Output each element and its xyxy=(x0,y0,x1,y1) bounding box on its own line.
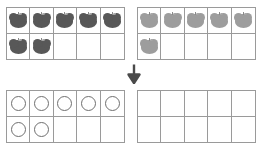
apple-leaf-icon xyxy=(220,13,223,15)
apple-body-icon xyxy=(211,14,228,28)
ten-frame-cell[interactable] xyxy=(232,8,255,34)
ten-frame-cell-empty[interactable] xyxy=(185,91,208,117)
ten-frame-cell-empty[interactable] xyxy=(77,117,100,143)
ten-frame-cell[interactable] xyxy=(30,34,53,60)
ten-frame-cell-empty[interactable] xyxy=(54,34,77,60)
ten-frame-cell[interactable] xyxy=(161,8,184,34)
ten-frame-cell[interactable] xyxy=(101,8,124,34)
ten-frame-top-left-apples[interactable] xyxy=(6,7,125,60)
apple-body-icon xyxy=(141,14,158,28)
apple-body-icon xyxy=(187,14,204,28)
apple-dark-icon xyxy=(33,12,50,28)
apple-body-icon xyxy=(235,14,252,28)
apple-body-icon xyxy=(10,40,27,54)
ten-frame-cell[interactable] xyxy=(208,8,231,34)
ten-frame-cell[interactable] xyxy=(138,8,161,34)
ten-frame-cell-empty[interactable] xyxy=(54,117,77,143)
worksheet-canvas xyxy=(0,0,267,149)
apple-light-icon xyxy=(187,12,204,28)
ten-frame-cell[interactable] xyxy=(77,8,100,34)
ten-frame-cell[interactable] xyxy=(30,8,53,34)
counter-circle-icon xyxy=(11,96,26,111)
apple-leaf-icon xyxy=(42,13,45,15)
ten-frame-cell[interactable] xyxy=(7,91,30,117)
ten-frame-cell-empty[interactable] xyxy=(232,117,255,143)
apple-leaf-icon xyxy=(113,13,116,15)
apple-dark-icon xyxy=(80,12,97,28)
counter-circle-icon xyxy=(11,122,26,137)
ten-frame-cell-empty[interactable] xyxy=(77,34,100,60)
counter-circle-icon xyxy=(105,96,120,111)
ten-frame-cell[interactable] xyxy=(54,91,77,117)
ten-frame-cell-empty[interactable] xyxy=(208,117,231,143)
ten-frame-cell-empty[interactable] xyxy=(185,34,208,60)
apple-body-icon xyxy=(10,14,27,28)
ten-frame-cell-empty[interactable] xyxy=(161,117,184,143)
apple-body-icon xyxy=(141,40,158,54)
counter-circle-icon xyxy=(34,122,49,137)
apple-leaf-icon xyxy=(244,13,247,15)
ten-frame-bottom-left-counters[interactable] xyxy=(6,90,125,143)
ten-frame-cell-empty[interactable] xyxy=(208,34,231,60)
apple-light-icon xyxy=(164,12,181,28)
apple-dark-icon xyxy=(33,38,50,54)
ten-frame-cell-empty[interactable] xyxy=(161,34,184,60)
apple-light-icon xyxy=(211,12,228,28)
ten-frame-bottom-right-empty[interactable] xyxy=(137,90,256,143)
apple-body-icon xyxy=(164,14,181,28)
ten-frame-cell[interactable] xyxy=(54,8,77,34)
arrow-down-icon xyxy=(124,63,144,85)
ten-frame-cell-empty[interactable] xyxy=(232,34,255,60)
counter-circle-icon xyxy=(81,96,96,111)
ten-frame-cell[interactable] xyxy=(7,117,30,143)
apple-dark-icon xyxy=(104,12,121,28)
ten-frame-cell[interactable] xyxy=(185,8,208,34)
apple-leaf-icon xyxy=(150,39,153,41)
ten-frame-cell-empty[interactable] xyxy=(185,117,208,143)
ten-frame-cell-empty[interactable] xyxy=(208,91,231,117)
apple-body-icon xyxy=(80,14,97,28)
apple-body-icon xyxy=(104,14,121,28)
ten-frame-cell-empty[interactable] xyxy=(138,117,161,143)
apple-body-icon xyxy=(33,40,50,54)
counter-circle-icon xyxy=(34,96,49,111)
apple-leaf-icon xyxy=(89,13,92,15)
ten-frame-cell-empty[interactable] xyxy=(232,91,255,117)
apple-leaf-icon xyxy=(19,13,22,15)
ten-frame-cell[interactable] xyxy=(101,91,124,117)
counter-circle-icon xyxy=(57,96,72,111)
ten-frame-cell[interactable] xyxy=(77,91,100,117)
ten-frame-cell-empty[interactable] xyxy=(101,117,124,143)
apple-leaf-icon xyxy=(42,39,45,41)
apple-body-icon xyxy=(56,14,73,28)
apple-body-icon xyxy=(33,14,50,28)
ten-frame-cell[interactable] xyxy=(7,8,30,34)
apple-dark-icon xyxy=(10,38,27,54)
ten-frame-cell[interactable] xyxy=(30,91,53,117)
apple-light-icon xyxy=(141,12,158,28)
ten-frame-cell-empty[interactable] xyxy=(101,34,124,60)
ten-frame-cell[interactable] xyxy=(7,34,30,60)
apple-dark-icon xyxy=(56,12,73,28)
apple-dark-icon xyxy=(10,12,27,28)
apple-leaf-icon xyxy=(19,39,22,41)
apple-leaf-icon xyxy=(150,13,153,15)
apple-light-icon xyxy=(235,12,252,28)
ten-frame-cell-empty[interactable] xyxy=(138,91,161,117)
ten-frame-cell[interactable] xyxy=(138,34,161,60)
ten-frame-top-right-apples[interactable] xyxy=(137,7,256,60)
ten-frame-cell[interactable] xyxy=(30,117,53,143)
apple-leaf-icon xyxy=(173,13,176,15)
apple-light-icon xyxy=(141,38,158,54)
ten-frame-cell-empty[interactable] xyxy=(161,91,184,117)
